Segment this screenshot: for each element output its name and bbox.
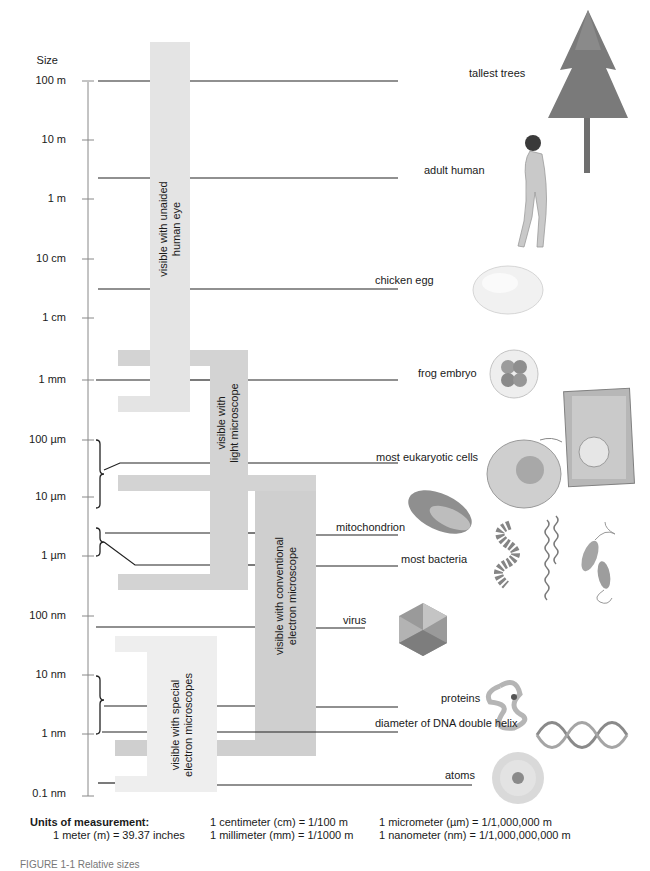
figure-caption: FIGURE 1-1 Relative sizes — [20, 858, 139, 871]
range-bar-special-em — [115, 636, 217, 792]
range-label-light-microscope: visible with light microscope — [215, 378, 241, 468]
scale-label: 0.1 nm — [0, 787, 66, 799]
scale-label: 1 m — [0, 192, 66, 204]
range-label-unaided-eye: visible with unaided human eye — [157, 179, 183, 279]
range-label-special-em: visible with special electron microscope… — [169, 670, 195, 780]
tree-icon — [548, 10, 628, 173]
scale-label: 10 µm — [0, 490, 66, 502]
scale-label: 100 µm — [0, 433, 66, 445]
eukaryotic-cell-icon — [487, 438, 562, 508]
scale-label: 10 m — [0, 133, 66, 145]
size-axis — [82, 81, 94, 796]
mitochondrion-icon — [402, 481, 479, 542]
object-label-adult-human: adult human — [424, 164, 485, 176]
atom-icon — [492, 752, 544, 804]
object-label-dna-diameter: diameter of DNA double helix — [375, 717, 517, 729]
object-label-atoms: atoms — [445, 769, 475, 781]
scale-label: 1 µm — [0, 549, 66, 561]
dna-helix-icon — [537, 723, 627, 748]
scale-label: 100 nm — [0, 609, 66, 621]
range-label-conventional-em: visible with conventional electron micro… — [273, 535, 299, 657]
frog-embryo-icon — [490, 350, 538, 398]
scale-label: 10 nm — [0, 668, 66, 680]
units-micrometer: 1 micrometer (µm) = 1/1,000,000 m — [379, 816, 571, 829]
units-millimeter: 1 millimeter (mm) = 1/1000 m — [210, 829, 353, 842]
human-icon — [518, 135, 547, 247]
virus-icon — [399, 603, 447, 656]
units-metric-small: 1 centimeter (cm) = 1/100 m 1 millimeter… — [210, 816, 353, 842]
object-label-frog-embryo: frog embryo — [418, 367, 477, 379]
range-braces — [96, 440, 104, 734]
units-title: Units of measurement: — [30, 816, 185, 829]
scale-label: 100 m — [0, 74, 66, 86]
units-nanometer: 1 nanometer (nm) = 1/1,000,000,000 m — [379, 829, 571, 842]
units-meter: 1 meter (m) = 39.37 inches — [30, 829, 185, 842]
object-label-proteins: proteins — [441, 692, 480, 704]
object-label-chicken-egg: chicken egg — [375, 274, 434, 286]
bacteria-icon — [498, 516, 615, 603]
object-label-virus: virus — [343, 614, 366, 626]
scale-label: 1 mm — [0, 373, 66, 385]
axis-title: Size — [0, 54, 58, 66]
scale-label: 1 nm — [0, 727, 66, 739]
scale-label: 10 cm — [0, 252, 66, 264]
units-block: Units of measurement: 1 meter (m) = 39.3… — [30, 816, 185, 842]
plant-cell-icon — [564, 388, 635, 486]
scale-label: 1 cm — [0, 311, 66, 323]
object-label-most-bacteria: most bacteria — [401, 553, 467, 565]
egg-icon — [473, 266, 543, 314]
object-label-tallest-trees: tallest trees — [469, 67, 525, 79]
object-label-eukaryotic-cells: most eukaryotic cells — [376, 451, 478, 463]
object-label-mitochondrion: mitochondrion — [336, 521, 405, 533]
units-metric-tiny: 1 micrometer (µm) = 1/1,000,000 m 1 nano… — [379, 816, 571, 842]
units-centimeter: 1 centimeter (cm) = 1/100 m — [210, 816, 353, 829]
